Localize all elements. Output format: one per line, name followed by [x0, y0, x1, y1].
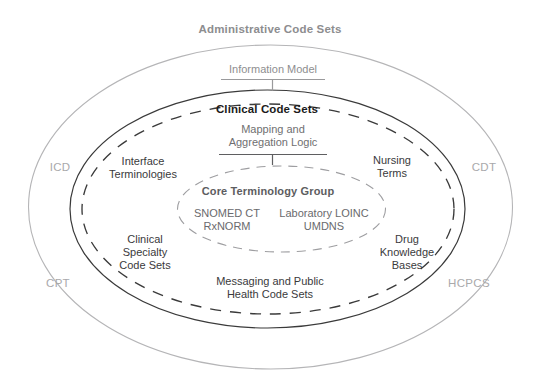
ring-ellipse-clinical-dashed [82, 104, 454, 314]
ring-ellipse-clinical [70, 90, 465, 328]
ring-ellipse-core [178, 166, 386, 252]
terminology-rings-diagram: Administrative Code Sets Information Mod… [0, 0, 533, 391]
ring-ellipse-administrative [29, 45, 513, 369]
ring-ellipses-canvas [0, 0, 533, 391]
